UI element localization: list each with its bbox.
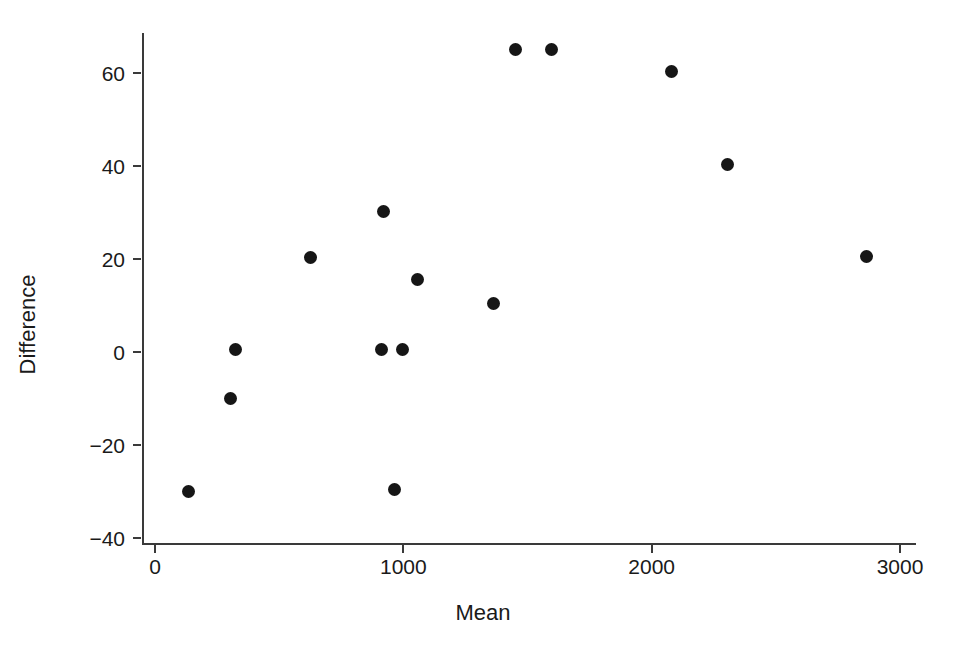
x-tick-mark	[899, 545, 901, 553]
x-tick-mark	[651, 545, 653, 553]
data-point	[665, 65, 678, 78]
y-tick-mark	[133, 351, 141, 353]
y-tick-mark	[133, 72, 141, 74]
x-tick-label: 3000	[845, 556, 955, 577]
data-point	[860, 250, 873, 263]
data-point	[224, 392, 237, 405]
data-point	[545, 43, 558, 56]
scatter-series	[0, 0, 966, 649]
data-point	[388, 483, 401, 496]
x-axis-line	[142, 543, 916, 545]
data-point	[229, 343, 242, 356]
x-tick-label: 0	[100, 556, 210, 577]
data-point	[721, 158, 734, 171]
y-axis-title: Difference	[8, 0, 48, 649]
data-point	[377, 205, 390, 218]
data-point	[509, 43, 522, 56]
y-tick-label: 0	[55, 342, 125, 363]
data-point	[304, 251, 317, 264]
x-axis-title: Mean	[0, 600, 966, 626]
data-point	[182, 485, 195, 498]
x-tick-label: 1000	[348, 556, 458, 577]
y-tick-mark	[133, 258, 141, 260]
y-tick-label: −40	[55, 528, 125, 549]
data-point	[375, 343, 388, 356]
data-point	[487, 297, 500, 310]
x-tick-mark	[402, 545, 404, 553]
y-tick-label: −20	[55, 435, 125, 456]
data-point	[396, 343, 409, 356]
data-point	[411, 273, 424, 286]
y-tick-mark	[133, 165, 141, 167]
x-tick-mark	[154, 545, 156, 553]
scatter-plot-figure: 6040200−20−40 0100020003000 Mean Differe…	[0, 0, 966, 649]
y-axis-line	[142, 33, 144, 545]
y-tick-mark	[133, 444, 141, 446]
y-tick-label: 40	[55, 156, 125, 177]
y-tick-label: 60	[55, 63, 125, 84]
x-tick-label: 2000	[597, 556, 707, 577]
y-tick-mark	[133, 537, 141, 539]
y-tick-label: 20	[55, 249, 125, 270]
